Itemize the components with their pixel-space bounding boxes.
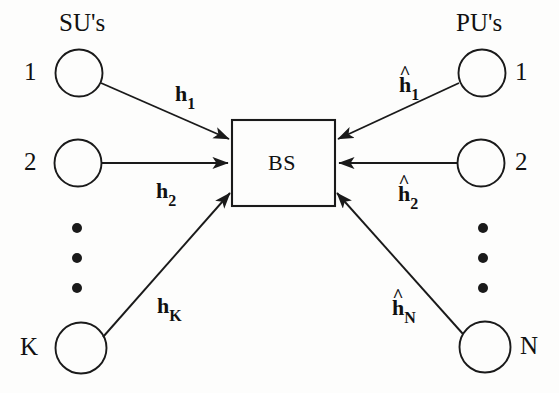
edge-label-hhat1: ^h1 <box>399 74 419 100</box>
edge-label-hk-symbol: h <box>157 295 169 317</box>
hat-accent-icon: ^ <box>400 63 411 82</box>
edge-label-h2: h2 <box>156 180 176 206</box>
edge-label-h1-symbol: h <box>175 83 187 105</box>
pu-node-2-circle <box>458 140 505 187</box>
pu-node-n-index: N <box>520 333 538 358</box>
su-node-2-circle <box>55 140 102 187</box>
edge-label-hhat2-subscript: 2 <box>410 195 418 212</box>
left-ellipsis-dot <box>72 223 82 233</box>
edge-label-h1: h1 <box>175 83 195 109</box>
right-ellipsis-dot <box>478 223 488 233</box>
edge-label-hhatn-subscript: N <box>404 309 416 326</box>
edge-label-hhat1-subscript: 1 <box>411 86 419 103</box>
pu-node-1-index: 1 <box>515 59 528 84</box>
su-node-k-index: K <box>20 334 38 359</box>
hat-accent-icon: ^ <box>399 172 410 191</box>
edge-label-h2-symbol: h <box>156 180 168 202</box>
pu-node-2-index: 2 <box>515 149 528 174</box>
edge-label-hhat2-symbol: ^h <box>398 183 410 205</box>
su-node-1-circle <box>56 50 103 97</box>
right-ellipsis-dot <box>478 253 488 263</box>
pu-group-title: PU's <box>456 10 502 35</box>
left-ellipsis-dot <box>72 283 82 293</box>
diagram-canvas: SU's PU's 1 2 K 1 2 N BS h1 h2 hK ^h1 ^h… <box>0 0 559 393</box>
edge-label-hhatn-symbol: ^h <box>392 297 404 319</box>
left-ellipsis-dot <box>72 253 82 263</box>
edge-label-hk: hK <box>157 295 182 321</box>
su-node-k-circle <box>56 323 107 374</box>
right-ellipsis-dot <box>478 283 488 293</box>
su-group-title: SU's <box>59 10 105 35</box>
hat-accent-icon: ^ <box>393 286 404 305</box>
diagram-graphics <box>0 0 559 393</box>
edge-label-hk-subscript: K <box>169 307 181 324</box>
bs-label: BS <box>268 152 296 174</box>
edge-label-h2-subscript: 2 <box>168 192 176 209</box>
edge-label-h1-subscript: 1 <box>187 95 195 112</box>
edge-su1-to-bs <box>101 83 229 139</box>
edge-label-hhat1-symbol: ^h <box>399 74 411 96</box>
pu-node-1-circle <box>459 50 506 97</box>
edge-label-hhat2: ^h2 <box>398 183 418 209</box>
su-node-2-index: 2 <box>24 149 37 174</box>
pu-node-n-circle <box>460 322 511 373</box>
su-node-1-index: 1 <box>24 59 37 84</box>
edge-label-hhatn: ^hN <box>392 297 416 323</box>
